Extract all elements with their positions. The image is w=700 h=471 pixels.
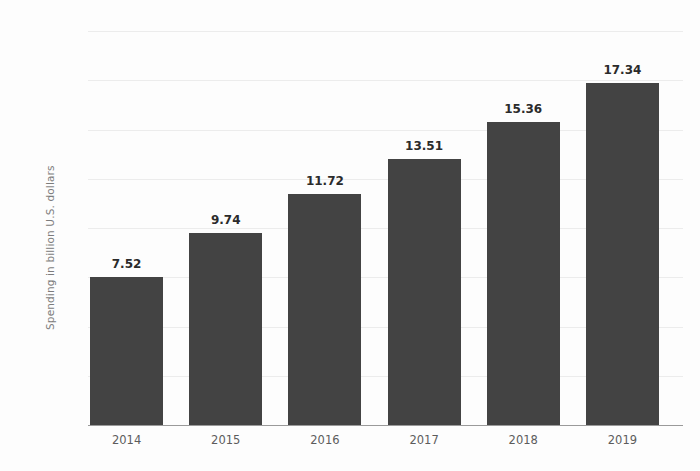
bar[interactable] <box>288 194 361 425</box>
x-axis-tick-label: 2018 <box>509 433 538 447</box>
x-axis-tick-labels: 201420152016201720182019 <box>88 433 683 453</box>
bar[interactable] <box>487 122 560 425</box>
bar-group[interactable]: 11.72 <box>288 31 361 425</box>
bar[interactable] <box>90 277 163 425</box>
bar-group[interactable]: 9.74 <box>189 31 262 425</box>
bar-value-label: 7.52 <box>68 257 185 271</box>
bar-group[interactable]: 7.52 <box>90 31 163 425</box>
bar-value-label: 13.51 <box>366 139 483 153</box>
bar-value-label: 9.74 <box>167 213 284 227</box>
bar[interactable] <box>189 233 262 425</box>
x-axis-tick-label: 2014 <box>112 433 141 447</box>
bar-value-label: 11.72 <box>266 174 383 188</box>
bar-value-label: 15.36 <box>465 102 582 116</box>
bar-chart: Spending in billion U.S. dollars 7.529.7… <box>0 0 700 471</box>
bar-group[interactable]: 17.34 <box>586 31 659 425</box>
bar-group[interactable]: 15.36 <box>487 31 560 425</box>
bar[interactable] <box>586 83 659 425</box>
x-axis-tick-label: 2016 <box>310 433 339 447</box>
x-axis-tick-label: 2017 <box>409 433 438 447</box>
bar[interactable] <box>388 159 461 425</box>
bar-group[interactable]: 13.51 <box>388 31 461 425</box>
x-axis-tick-label: 2019 <box>608 433 637 447</box>
bar-series: 7.529.7411.7213.5115.3617.34 <box>88 31 683 425</box>
x-axis-tick-label: 2015 <box>211 433 240 447</box>
plot-area: 7.529.7411.7213.5115.3617.34 02.557.5101… <box>88 31 683 425</box>
bar-value-label: 17.34 <box>564 63 681 77</box>
y-axis-title: Spending in billion U.S. dollars <box>44 70 60 330</box>
